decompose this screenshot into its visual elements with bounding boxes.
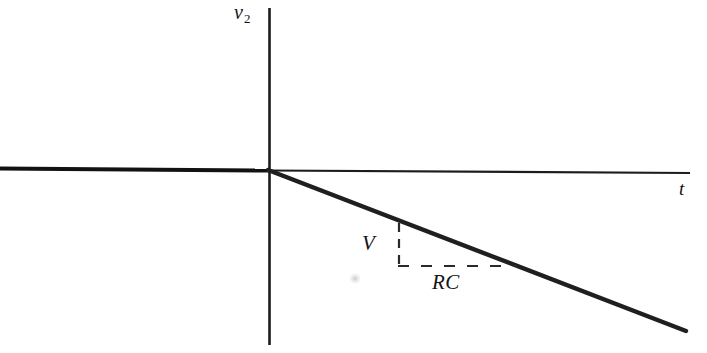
rise-label: V — [362, 231, 375, 256]
x-axis-label: t — [679, 178, 684, 200]
integrator-output-figure: v2 t V RC — [0, 0, 707, 353]
y-axis-label-text: v — [234, 1, 243, 23]
x-axis-left-segment — [0, 169, 268, 171]
y-axis-label: v2 — [234, 1, 249, 24]
y-axis-label-subscript: 2 — [244, 11, 251, 26]
plot-canvas — [0, 0, 707, 353]
x-axis-right-segment — [268, 171, 690, 174]
response-line — [268, 170, 686, 331]
run-label: RC — [432, 270, 460, 295]
